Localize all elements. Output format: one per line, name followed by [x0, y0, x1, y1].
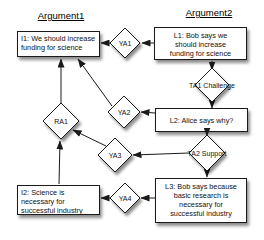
edge-ya2-to-i1[interactable]: [78, 59, 112, 106]
node-ya1[interactable]: YA1: [110, 28, 140, 58]
node-ta1[interactable]: TA1 Challenge: [189, 68, 235, 102]
diagram-canvas: YA1 YA2 YA3 YA4 RA1 TA1 Challenge TA2 Su…: [0, 0, 264, 240]
node-ya2-label: YA2: [118, 109, 131, 116]
node-ra1[interactable]: RA1: [43, 103, 79, 139]
node-ya4[interactable]: YA4: [110, 183, 140, 213]
node-ta2[interactable]: TA2 Support: [188, 135, 227, 171]
node-ta1-label: TA1 Challenge: [189, 82, 235, 90]
node-ya1-label: YA1: [119, 40, 132, 47]
node-ta2-label: TA2 Support: [188, 150, 227, 158]
edge-l2-to-ya2[interactable]: [141, 112, 155, 113]
edge-ya3-to-ra1[interactable]: [73, 130, 106, 146]
node-ya3[interactable]: YA3: [98, 138, 132, 172]
node-ya4-label: YA4: [119, 195, 132, 202]
edge-i2-to-ra1[interactable]: [59, 141, 60, 184]
node-ya3-label: YA3: [109, 152, 122, 159]
node-ya2[interactable]: YA2: [108, 96, 140, 128]
node-ra1-label: RA1: [54, 118, 68, 125]
edge-ta2-to-ya3[interactable]: [133, 153, 189, 155]
argument-diagram: Argument1 Argument2 I1: We should increa…: [0, 0, 264, 240]
